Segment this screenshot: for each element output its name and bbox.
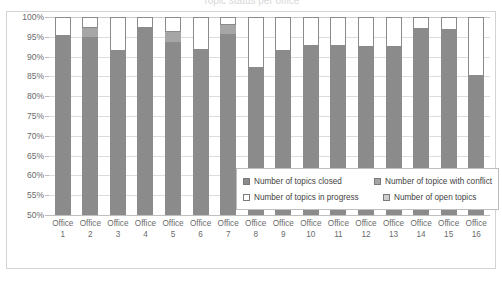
legend-item-conflict[interactable]: Number of topice with conflict: [374, 177, 492, 186]
x-axis-label-line1: Office: [245, 219, 266, 228]
x-axis-label: Office7: [214, 218, 242, 240]
y-tick-label: 70%: [27, 131, 44, 141]
x-axis-label: Office13: [380, 218, 408, 240]
x-axis-label-line1: Office: [466, 219, 487, 228]
page-title: Topic status per office: [0, 0, 502, 6]
bar-segment[interactable]: [82, 37, 98, 215]
y-tick-label: 100%: [22, 12, 44, 22]
bar-stack[interactable]: [55, 17, 71, 215]
bar-segment[interactable]: [55, 36, 71, 215]
x-axis-label-line1: Office: [355, 219, 376, 228]
x-axis-label-line2: 5: [159, 229, 187, 240]
legend-item-closed[interactable]: Number of topics closed: [243, 177, 374, 186]
x-axis-label-line2: 4: [132, 229, 160, 240]
y-tick-mark: [45, 215, 49, 216]
x-axis-label: Office12: [352, 218, 380, 240]
legend-swatch-in-progress-icon: [243, 194, 250, 201]
legend-label-open: Number of open topics: [394, 193, 476, 202]
bar-segment[interactable]: [248, 17, 264, 68]
bar-stack[interactable]: [165, 17, 181, 215]
chart-screenshot: Topic status per office 100%95%90%85%80%…: [0, 0, 502, 282]
legend-label-closed: Number of topics closed: [254, 177, 342, 186]
x-axis-label: Office2: [77, 218, 105, 240]
y-tick-label: 60%: [27, 170, 44, 180]
y-tick-label: 80%: [27, 91, 44, 101]
x-axis-label: Office14: [407, 218, 435, 240]
y-tick-label: 95%: [27, 32, 44, 42]
bar-segment[interactable]: [330, 17, 346, 46]
bar-segment[interactable]: [468, 17, 484, 76]
y-tick-label: 65%: [27, 151, 44, 161]
x-axis-label-line1: Office: [107, 219, 128, 228]
bar-slot: [159, 17, 187, 215]
y-tick-label: 50%: [27, 210, 44, 220]
bar-stack[interactable]: [110, 17, 126, 215]
x-axis-label: Office3: [104, 218, 132, 240]
x-axis-label-line1: Office: [328, 219, 349, 228]
x-axis-label-line1: Office: [135, 219, 156, 228]
x-axis-label: Office8: [242, 218, 270, 240]
x-axis-label-line2: 11: [325, 229, 353, 240]
legend-swatch-closed-icon: [243, 178, 250, 185]
x-axis-label-line2: 13: [380, 229, 408, 240]
bar-segment[interactable]: [413, 17, 429, 29]
bar-segment[interactable]: [275, 17, 291, 51]
bar-segment[interactable]: [193, 17, 209, 50]
bar-slot: [49, 17, 77, 215]
bar-stack[interactable]: [220, 17, 236, 215]
bar-slot: [104, 17, 132, 215]
x-axis-label-line2: 3: [104, 229, 132, 240]
x-axis: Office1Office2Office3Office4Office5Offic…: [49, 218, 490, 252]
bar-stack[interactable]: [137, 17, 153, 215]
x-axis-label: Office15: [435, 218, 463, 240]
legend-item-in-progress[interactable]: Number of topics in progress: [243, 193, 383, 202]
x-axis-label: Office9: [270, 218, 298, 240]
x-axis-label: Office1: [49, 218, 77, 240]
bar-segment[interactable]: [110, 17, 126, 51]
x-axis-label-line2: 2: [77, 229, 105, 240]
bar-segment[interactable]: [220, 34, 236, 215]
x-axis-label-line2: 1: [49, 229, 77, 240]
bar-segment[interactable]: [165, 42, 181, 215]
x-axis-label: Office5: [159, 218, 187, 240]
bar-segment[interactable]: [220, 25, 236, 34]
x-axis-label-line2: 12: [352, 229, 380, 240]
bar-segment[interactable]: [441, 17, 457, 30]
bar-segment[interactable]: [137, 17, 153, 28]
legend-label-conflict: Number of topice with conflict: [385, 177, 492, 186]
bar-segment[interactable]: [165, 32, 181, 42]
x-axis-label-line1: Office: [300, 219, 321, 228]
bar-segment[interactable]: [165, 17, 181, 32]
bar-segment[interactable]: [137, 28, 153, 215]
y-tick-label: 55%: [27, 190, 44, 200]
x-axis-label-line2: 15: [435, 229, 463, 240]
x-axis-label-line2: 16: [462, 229, 490, 240]
bar-segment[interactable]: [82, 28, 98, 37]
bar-stack[interactable]: [82, 17, 98, 215]
bar-segment[interactable]: [82, 17, 98, 28]
legend-item-open[interactable]: Number of open topics: [383, 193, 476, 202]
gridline: [49, 215, 490, 216]
x-axis-label-line2: 9: [270, 229, 298, 240]
bar-slot: [132, 17, 160, 215]
x-axis-label-line1: Office: [273, 219, 294, 228]
x-axis-label: Office4: [132, 218, 160, 240]
chart-legend: Number of topics closed Number of topice…: [236, 168, 499, 210]
x-axis-label-line1: Office: [52, 219, 73, 228]
bar-segment[interactable]: [193, 50, 209, 215]
legend-row: Number of topics closed Number of topice…: [243, 173, 492, 189]
bar-segment[interactable]: [110, 51, 126, 215]
x-axis-label: Office10: [297, 218, 325, 240]
bar-segment[interactable]: [358, 17, 374, 47]
x-axis-label-line2: 14: [407, 229, 435, 240]
y-tick-label: 85%: [27, 71, 44, 81]
x-axis-label-line1: Office: [410, 219, 431, 228]
bar-segment[interactable]: [386, 17, 402, 47]
y-tick-label: 75%: [27, 111, 44, 121]
bar-segment[interactable]: [55, 17, 71, 36]
legend-label-in-progress: Number of topics in progress: [254, 193, 359, 202]
bar-segment[interactable]: [303, 17, 319, 46]
bar-segment[interactable]: [220, 17, 236, 25]
bar-stack[interactable]: [193, 17, 209, 215]
x-axis-label-line1: Office: [190, 219, 211, 228]
